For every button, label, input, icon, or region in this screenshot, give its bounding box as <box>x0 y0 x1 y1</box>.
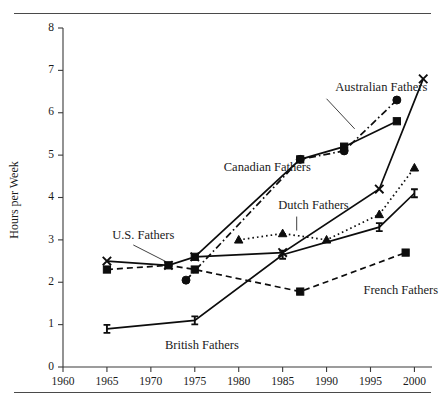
line-chart: 012345678 196019651970197519801985199019… <box>0 0 445 406</box>
series-annotation-label: U.S. Fathers <box>112 228 174 242</box>
x-axis: 196019651970197519801985199019952000 <box>52 367 433 387</box>
y-axis: 012345678 <box>48 21 63 372</box>
series-annotation-label: Canadian Fathers <box>224 160 311 174</box>
y-tick-label: 0 <box>48 360 54 372</box>
x-tick-label: 1960 <box>52 375 75 387</box>
y-tick-label: 8 <box>48 21 54 33</box>
series-annotation-label: British Fathers <box>165 338 239 352</box>
series-annotation-label: French Fathers <box>363 283 438 297</box>
y-tick-label: 2 <box>48 275 54 287</box>
figure-container: 012345678 196019651970197519801985199019… <box>0 0 445 406</box>
annotation-leader-line <box>327 99 355 129</box>
x-tick-label: 1995 <box>359 375 382 387</box>
y-tick-label: 1 <box>48 317 54 329</box>
y-tick-label: 7 <box>48 63 54 75</box>
y-axis-title: Hours per Week <box>7 161 21 238</box>
series-path <box>186 100 397 280</box>
series-canadian-fathers <box>191 118 400 261</box>
series-annotation-label: Dutch Fathers <box>278 198 349 212</box>
x-tick-label: 1985 <box>271 375 294 387</box>
x-tick-label: 1965 <box>95 375 118 387</box>
series-path <box>195 121 397 257</box>
series-annotation-label: Australian Fathers <box>335 80 427 94</box>
x-tick-label: 2000 <box>403 375 426 387</box>
y-tick-label: 3 <box>48 233 54 245</box>
x-tick-label: 1975 <box>183 375 206 387</box>
y-tick-label: 4 <box>48 190 54 202</box>
y-tick-label: 5 <box>48 148 54 160</box>
x-tick-label: 1990 <box>315 375 338 387</box>
series-path <box>107 193 415 329</box>
annotation-leader-line <box>133 245 165 261</box>
series-british-fathers <box>104 189 418 333</box>
series-path <box>107 253 406 292</box>
x-tick-label: 1970 <box>139 375 162 387</box>
annotation-layer: Canadian FathersAustralian FathersDutch … <box>112 80 438 352</box>
x-tick-label: 1980 <box>227 375 250 387</box>
y-tick-label: 6 <box>48 105 54 117</box>
